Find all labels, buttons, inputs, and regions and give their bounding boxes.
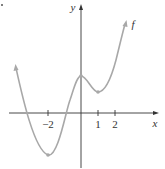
- function-graph: −2 1 2 x y f: [0, 0, 165, 169]
- x-axis-arrow-icon: [153, 111, 159, 115]
- tick-label-neg2: −2: [42, 118, 54, 130]
- curve-left-arrow-icon: [14, 64, 19, 71]
- point-local-max-0: [79, 74, 83, 78]
- y-axis-label: y: [70, 1, 76, 13]
- point-local-min-neg2: [46, 153, 50, 157]
- curve-f: [16, 24, 125, 155]
- tick-label-1: 1: [95, 118, 101, 130]
- curve-label-f: f: [131, 18, 136, 30]
- point-local-min-1: [96, 90, 100, 94]
- bullet-mark: [1, 4, 3, 6]
- tick-label-2: 2: [112, 118, 118, 130]
- y-axis-arrow-icon: [79, 4, 83, 10]
- curve-right-arrow-icon: [123, 20, 128, 27]
- x-axis-label: x: [152, 117, 158, 129]
